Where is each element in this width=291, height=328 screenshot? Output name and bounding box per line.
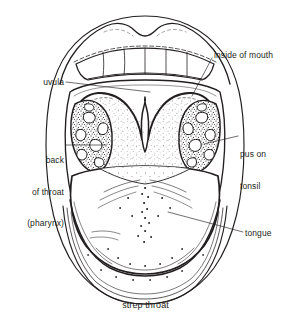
strep-throat-figure: uvula back of throat (pharynx) inside of… — [0, 0, 291, 328]
label-back-of-throat-line-2: of throat — [2, 187, 64, 198]
label-inside-of-mouth: inside of mouth — [214, 50, 290, 61]
figure-caption: strep throat — [0, 300, 291, 311]
label-tongue: tongue — [245, 228, 291, 239]
label-pus-on-tonsil-line-2: tonsil — [240, 181, 290, 192]
label-back-of-throat-line-3: (pharynx) — [2, 218, 64, 229]
label-back-of-throat-line-1: back — [2, 155, 64, 166]
label-back-of-throat: back of throat (pharynx) — [2, 134, 64, 250]
label-uvula: uvula — [8, 77, 64, 88]
label-pus-on-tonsil-line-1: pus on — [240, 149, 290, 160]
label-pus-on-tonsil: pus on tonsil — [240, 128, 290, 212]
